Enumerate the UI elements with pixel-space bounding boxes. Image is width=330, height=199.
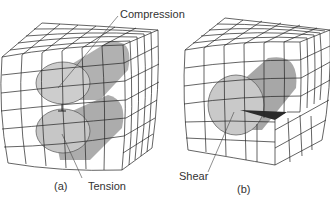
panel-a-block [1, 16, 159, 178]
tension-label: Tension [88, 180, 126, 192]
diagram-canvas [0, 0, 330, 199]
panel-a-caption: (a) [54, 180, 67, 192]
panel-b-block [184, 18, 330, 172]
panel-b-caption: (b) [237, 183, 250, 195]
shear-face [208, 75, 264, 135]
shear-label: Shear [179, 170, 208, 182]
compression-label: Compression [120, 8, 185, 20]
